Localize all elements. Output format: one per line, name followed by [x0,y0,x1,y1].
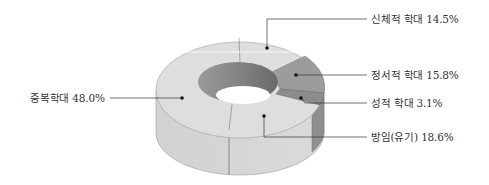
label-sexual-abuse: 성적 학대 3.1% [371,97,442,109]
label-neglect: 방임(유기) 18.6% [371,131,454,143]
line-physical [267,19,367,48]
donut-hole-opening [216,86,270,104]
label-multiple-abuse: 중복학대 48.0% [30,92,105,104]
label-physical-abuse: 신체적 학대 14.5% [371,13,459,25]
label-emotional-abuse: 정서적 학대 15.8% [371,69,459,81]
